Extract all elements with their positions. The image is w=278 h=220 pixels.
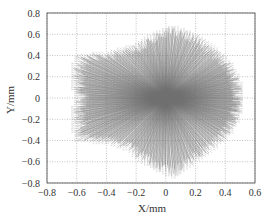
y-tick-label: 0.2 xyxy=(28,71,41,82)
x-axis-ticks: −0.8−0.6−0.4−0.200.20.40.6 xyxy=(38,187,261,198)
x-tick-label: −0.4 xyxy=(97,187,115,198)
y-tick-label: −0.8 xyxy=(22,178,40,189)
y-tick-label: 0.6 xyxy=(28,29,41,40)
y-tick-label: 0 xyxy=(35,93,40,104)
vector-rays xyxy=(71,26,243,179)
y-axis-label: Y/mm xyxy=(4,86,16,115)
vector-field-chart: −0.8−0.6−0.4−0.200.20.40.6 −0.8−0.6−0.4−… xyxy=(0,0,278,220)
x-tick-label: −0.6 xyxy=(68,187,86,198)
y-axis-ticks: −0.8−0.6−0.4−0.200.20.40.60.8 xyxy=(22,8,40,189)
x-tick-label: −0.8 xyxy=(38,187,56,198)
y-tick-label: −0.6 xyxy=(22,156,40,167)
x-tick-label: −0.2 xyxy=(127,187,145,198)
x-tick-label: 0.6 xyxy=(249,187,262,198)
y-tick-label: −0.2 xyxy=(22,114,40,125)
x-axis-label: X/mm xyxy=(138,202,167,214)
y-tick-label: 0.4 xyxy=(28,50,41,61)
y-tick-label: −0.4 xyxy=(22,135,40,146)
x-tick-label: 0 xyxy=(163,187,168,198)
y-tick-label: 0.8 xyxy=(28,8,41,19)
x-tick-label: 0.4 xyxy=(219,187,232,198)
x-tick-label: 0.2 xyxy=(189,187,202,198)
